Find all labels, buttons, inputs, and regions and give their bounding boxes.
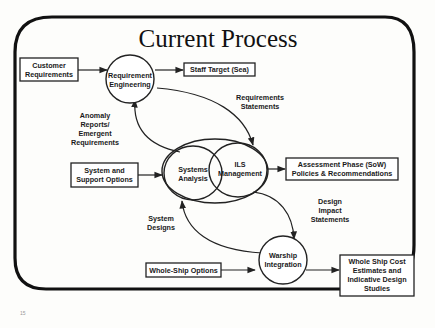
svg-text:Reports/: Reports/: [80, 120, 109, 129]
page-title: Current Process: [139, 25, 298, 52]
svg-text:ILS: ILS: [234, 160, 245, 169]
box-staff-target: Staff Target (Sea): [184, 63, 255, 76]
svg-text:Statements: Statements: [311, 215, 350, 224]
svg-text:Warship: Warship: [269, 251, 298, 260]
svg-text:Management: Management: [218, 169, 263, 178]
svg-text:Whole Ship Cost: Whole Ship Cost: [348, 257, 406, 266]
svg-text:Impact: Impact: [318, 206, 342, 215]
edge-wi-to-sa: [182, 201, 262, 253]
svg-text:Designs: Designs: [147, 223, 175, 232]
svg-text:Indicative Design: Indicative Design: [347, 275, 406, 284]
svg-text:Support Options: Support Options: [76, 175, 133, 184]
node-requirement-engineering: Requirement Engineering: [106, 55, 154, 103]
svg-text:System and: System and: [84, 166, 124, 175]
svg-text:Statements: Statements: [241, 102, 280, 111]
svg-text:System: System: [148, 214, 174, 223]
box-system-support-options: System and Support Options: [71, 163, 138, 187]
svg-text:Requirements: Requirements: [25, 70, 73, 79]
svg-text:Analysis: Analysis: [178, 174, 208, 183]
node-systems-analysis: Systems Analysis: [164, 146, 222, 200]
label-design-impact: Design Impact Statements: [311, 197, 350, 224]
box-whole-ship-cost: Whole Ship Cost Estimates and Indicative…: [340, 255, 414, 296]
svg-text:Whole-Ship Options: Whole-Ship Options: [149, 266, 218, 275]
svg-text:Policies & Recommendations: Policies & Recommendations: [292, 169, 393, 178]
label-requirements-statements: Requirements Statements: [236, 93, 284, 111]
page-number: 15: [20, 310, 26, 316]
svg-text:Assessment Phase (SoW): Assessment Phase (SoW): [298, 160, 387, 169]
svg-text:Studies: Studies: [364, 284, 390, 293]
node-ils-management: ILS Management: [209, 143, 267, 197]
label-anomaly-reports: Anomaly Reports/ Emergent Requirements: [71, 111, 119, 147]
svg-text:Anomaly: Anomaly: [80, 111, 110, 120]
current-process-diagram: Current Process Customer Requirements St…: [0, 0, 435, 328]
svg-text:Engineering: Engineering: [109, 80, 151, 89]
box-whole-ship-options: Whole-Ship Options: [146, 263, 221, 277]
svg-text:Systems: Systems: [178, 165, 208, 174]
svg-text:Requirement: Requirement: [108, 71, 153, 80]
node-warship-integration: Warship Integration: [259, 236, 307, 284]
label-system-designs: System Designs: [147, 214, 175, 232]
svg-text:Design: Design: [318, 197, 342, 206]
edge-ils-to-wi: [253, 192, 294, 239]
svg-text:Emergent: Emergent: [78, 129, 112, 138]
svg-text:Staff Target (Sea): Staff Target (Sea): [190, 65, 250, 74]
box-customer-requirements: Customer Requirements: [20, 58, 78, 81]
node-systems-ils-cluster: Systems Analysis ILS Management: [162, 139, 268, 203]
svg-text:Integration: Integration: [264, 260, 301, 269]
edge-sa-to-re: [135, 100, 180, 152]
svg-text:Requirements: Requirements: [71, 138, 119, 147]
svg-text:Estimates and: Estimates and: [353, 266, 402, 275]
svg-text:Customer: Customer: [32, 61, 66, 70]
box-assessment-phase: Assessment Phase (SoW) Policies & Recomm…: [286, 158, 398, 180]
svg-text:Requirements: Requirements: [236, 93, 284, 102]
